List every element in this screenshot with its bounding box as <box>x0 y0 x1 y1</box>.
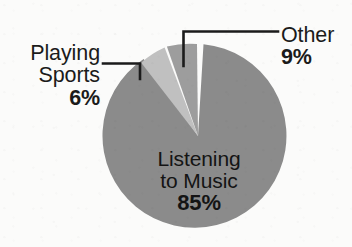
pie-label-listening-to-music: Listening to Music 85% <box>131 148 267 215</box>
pie-label-listening-to-music-line2: to Music <box>131 170 267 192</box>
pie-label-playing-sports-line1: Playing <box>18 42 100 64</box>
pie-label-listening-to-music-percent: 85% <box>131 192 267 215</box>
pie-label-listening-to-music-line1: Listening <box>131 148 267 170</box>
pie-label-playing-sports-percent: 6% <box>18 87 100 109</box>
pie-label-other: Other 9% <box>281 24 334 69</box>
pie-chart: Playing Sports 6% Other 9% Listening to … <box>0 0 352 247</box>
pie-label-other-line1: Other <box>281 24 334 46</box>
pie-label-playing-sports-line2: Sports <box>18 64 100 86</box>
pie-label-other-percent: 9% <box>281 46 334 68</box>
pie-label-playing-sports: Playing Sports 6% <box>18 42 100 109</box>
